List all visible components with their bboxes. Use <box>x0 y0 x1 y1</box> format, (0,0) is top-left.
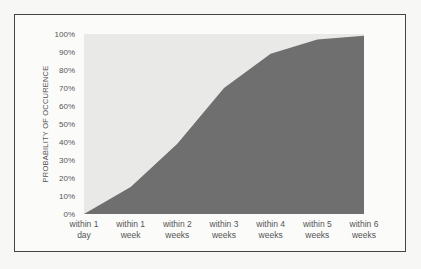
y-tick-label: 10% <box>59 192 75 201</box>
y-tick-label: 30% <box>59 156 75 165</box>
y-tick-label: 0% <box>63 210 75 219</box>
y-axis-ticks: 0%10%20%30%40%50%60%70%80%90%100% <box>55 30 75 219</box>
y-tick-label: 90% <box>59 48 75 57</box>
x-tick-label: within 6weeks <box>349 219 379 240</box>
y-axis-label: PROBABILITY OF OCCURENCE <box>41 66 50 183</box>
x-axis-ticks: within 1daywithin 1weekwithin 2weekswith… <box>69 219 379 240</box>
x-tick-label: within 1day <box>69 219 99 240</box>
chart-frame: 0%10%20%30%40%50%60%70%80%90%100% within… <box>14 14 406 252</box>
x-tick-label: within 1week <box>115 219 145 240</box>
x-tick-label: within 2weeks <box>162 219 192 240</box>
y-tick-label: 50% <box>59 120 75 129</box>
area-chart: 0%10%20%30%40%50%60%70%80%90%100% within… <box>15 15 407 253</box>
x-tick-label: within 5weeks <box>302 219 332 240</box>
x-tick-label: within 4weeks <box>255 219 285 240</box>
y-tick-label: 40% <box>59 138 75 147</box>
y-tick-label: 20% <box>59 174 75 183</box>
y-tick-label: 60% <box>59 102 75 111</box>
x-tick-label: within 3weeks <box>209 219 239 240</box>
y-tick-label: 70% <box>59 84 75 93</box>
y-tick-label: 100% <box>55 30 75 39</box>
y-tick-label: 80% <box>59 66 75 75</box>
